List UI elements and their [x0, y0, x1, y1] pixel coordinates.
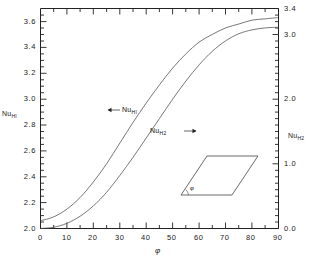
x-tick-20: 20 — [88, 234, 98, 242]
y-right-tick-0-0: 0.0 — [284, 225, 296, 233]
top-axis-ticks — [54, 9, 265, 15]
curve-label-nu-h1: NuHI — [122, 106, 137, 115]
x-tick-40: 40 — [141, 234, 151, 242]
right-axis-ticks — [273, 9, 279, 229]
y-left-tick-2-8: 2.8 — [14, 121, 36, 129]
y-left-tick-3-4: 3.4 — [14, 43, 36, 51]
curve-label-nu-h1-sub: HI — [132, 109, 138, 115]
y-axis-left-title-main: Nu — [2, 110, 12, 117]
arrow-left-icon — [108, 108, 120, 112]
y-left-tick-3-0: 3.0 — [14, 95, 36, 103]
x-tick-0: 0 — [38, 234, 43, 242]
x-tick-80: 80 — [246, 234, 256, 242]
figure-container: 3.6 3.4 3.2 3.0 2.8 2.6 2.4 2.2 2.0 3.4 … — [0, 0, 311, 266]
arrow-right-icon — [184, 129, 196, 133]
x-tick-90: 90 — [273, 234, 283, 242]
curve-label-nu-h2-sub: H2 — [160, 130, 167, 136]
y-left-tick-2-4: 2.4 — [14, 173, 36, 181]
y-right-tick-3-0: 3.0 — [284, 31, 296, 39]
x-tick-50: 50 — [167, 234, 177, 242]
y-axis-right-title-main: Nu — [288, 132, 298, 139]
inset-angle-arc — [186, 190, 189, 195]
y-axis-right-title: NuH2 — [288, 132, 304, 141]
curve-label-nu-h1-main: Nu — [122, 106, 132, 113]
curve-label-nu-h2: NuH2 — [150, 127, 167, 136]
x-tick-30: 30 — [115, 234, 125, 242]
y-right-tick-2-0: 2.0 — [284, 95, 296, 103]
y-left-tick-2-6: 2.6 — [14, 147, 36, 155]
inset-angle-label: φ — [190, 185, 194, 191]
y-left-tick-3-2: 3.2 — [14, 69, 36, 77]
x-tick-70: 70 — [220, 234, 230, 242]
x-axis-title: φ — [155, 247, 160, 255]
x-axis-ticks — [41, 223, 279, 229]
x-tick-10: 10 — [62, 234, 72, 242]
y-right-tick-3-4: 3.4 — [284, 5, 296, 13]
data-curves — [41, 18, 279, 229]
y-axis-left-title-sub: HI — [12, 113, 17, 119]
left-axis-ticks — [41, 15, 47, 228]
y-axis-left-title: NuHI — [2, 110, 17, 119]
y-axis-right-title-sub: H2 — [298, 135, 305, 141]
x-tick-60: 60 — [194, 234, 204, 242]
y-left-tick-3-6: 3.6 — [14, 18, 36, 26]
y-left-tick-2-2: 2.2 — [14, 199, 36, 207]
y-right-tick-1-0: 1.0 — [284, 160, 296, 168]
curve-label-nu-h2-main: Nu — [150, 127, 160, 134]
y-left-tick-2-0: 2.0 — [14, 225, 36, 233]
